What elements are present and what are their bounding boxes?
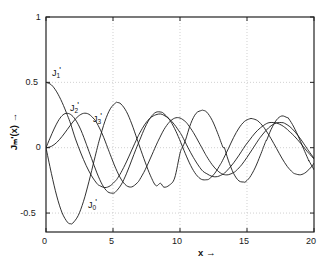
x-tick-label: 5	[109, 237, 114, 246]
y-axis-title: Jₘ'(x) →	[8, 89, 19, 175]
curve-label-prime: '	[95, 197, 97, 207]
curve-label-prime: '	[59, 65, 61, 75]
curves-group	[46, 82, 314, 224]
figure-root: 05101520 10.50-0.5 x → Jₘ'(x) → J0'J1'J2…	[0, 0, 332, 269]
y-tick-label: 0.5	[25, 78, 38, 87]
y-axis-title-wrap: Jₘ'(x) →	[2, 94, 20, 174]
curve-J3-prime	[46, 113, 314, 187]
J0-prime-label: J0'	[88, 198, 97, 211]
x-axis-title: x →	[198, 248, 215, 258]
x-tick-label: 15	[239, 237, 249, 246]
y-tick-label: 1	[36, 13, 41, 22]
x-tick-label: 20	[306, 237, 316, 246]
curve-J0-prime	[46, 102, 314, 224]
x-tick-label: 10	[172, 237, 182, 246]
y-tick-label: 0	[36, 143, 41, 152]
x-tick-label: 0	[42, 237, 47, 246]
curve-label-prime: '	[77, 100, 79, 110]
J1-prime-label: J1'	[52, 66, 61, 79]
J2-prime-label: J2'	[70, 101, 79, 114]
curve-label-prime: '	[100, 111, 102, 121]
J3-prime-label: J3'	[93, 112, 102, 125]
y-tick-label: -0.5	[20, 209, 36, 218]
plot-svg	[0, 0, 332, 269]
